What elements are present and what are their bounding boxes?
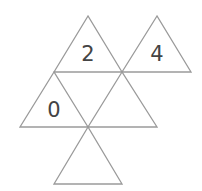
triangle-puzzle-diagram: 2 4 0	[0, 0, 202, 191]
triangle-top-left: 2	[54, 16, 122, 72]
triangle-middle-right	[88, 72, 157, 127]
triangle-number-label: 0	[47, 98, 60, 122]
triangle-shape	[88, 72, 157, 127]
triangle-top-right: 4	[122, 16, 191, 72]
triangle-middle-left: 0	[20, 72, 88, 127]
triangle-number-label: 4	[150, 42, 163, 66]
triangle-bottom	[54, 127, 122, 184]
triangle-number-label: 2	[81, 42, 94, 66]
triangle-shape	[54, 127, 122, 184]
